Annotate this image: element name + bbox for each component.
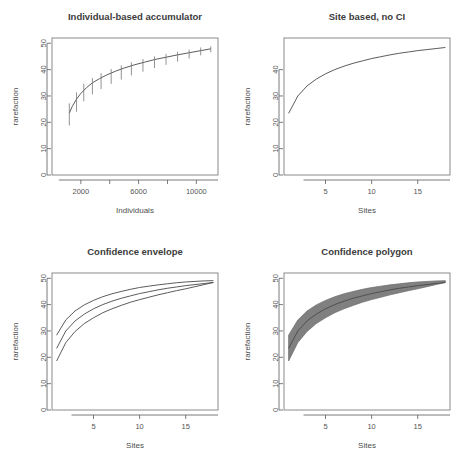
chart-site-based-no-ci: Site based, no CI01020304051015Sitesrare… (232, 0, 464, 235)
panel-site-based-no-ci: Site based, no CI01020304051015Sitesrare… (232, 0, 464, 235)
y-tick-label: 40 (39, 65, 48, 73)
y-tick-label: 30 (271, 92, 280, 100)
y-tick-label: 10 (271, 144, 280, 152)
y-tick-label: 0 (271, 408, 280, 412)
y-tick-label: 30 (39, 92, 48, 100)
panel-confidence-polygon: Confidence polygon0102030405051015Sitesr… (232, 235, 464, 470)
y-tick-label: 10 (271, 379, 280, 387)
x-tick-label: 10 (367, 422, 375, 431)
x-tick-label: 10 (367, 187, 375, 196)
mean-curve (69, 49, 210, 113)
y-tick-label: 20 (271, 353, 280, 361)
y-tick-label: 10 (39, 144, 48, 152)
plot-title: Confidence envelope (87, 246, 183, 257)
plot-title: Confidence polygon (321, 246, 413, 257)
x-axis-title: Sites (358, 206, 376, 215)
y-tick-label: 0 (271, 173, 280, 177)
y-axis-title: rarefaction (11, 323, 20, 361)
x-axis-title: Individuals (116, 206, 154, 215)
y-tick-label: 10 (39, 379, 48, 387)
plot-box (284, 38, 450, 175)
y-tick-label: 40 (271, 300, 280, 308)
x-tick-label: 6000 (130, 187, 147, 196)
panel-confidence-envelope: Confidence envelope0102030405051015Sites… (0, 235, 232, 470)
y-tick-label: 20 (39, 118, 48, 126)
x-tick-label: 15 (182, 422, 190, 431)
curve-lower-confidence-limit (57, 282, 214, 361)
y-axis-title: rarefaction (243, 88, 252, 126)
panel-individual-based-accumulator: Individual-based accumulator010203040502… (0, 0, 232, 235)
x-tick-label: 10000 (186, 187, 207, 196)
plot-title: Individual-based accumulator (68, 11, 202, 22)
figure-panel-grid: Individual-based accumulator010203040502… (0, 0, 464, 470)
y-tick-label: 30 (271, 327, 280, 335)
y-tick-label: 0 (39, 408, 48, 412)
x-tick-label: 5 (323, 187, 327, 196)
y-tick-label: 50 (271, 274, 280, 282)
x-tick-label: 2000 (73, 187, 90, 196)
y-axis-title: rarefaction (243, 323, 252, 361)
y-tick-label: 20 (39, 353, 48, 361)
x-axis-title: Sites (126, 441, 144, 450)
x-tick-label: 15 (414, 187, 422, 196)
y-tick-label: 50 (39, 274, 48, 282)
confidence-polygon-fill (289, 281, 446, 361)
chart-confidence-envelope: Confidence envelope0102030405051015Sites… (0, 235, 232, 470)
x-tick-label: 5 (91, 422, 95, 431)
y-tick-label: 20 (271, 118, 280, 126)
x-tick-label: 15 (414, 422, 422, 431)
chart-individual-based-accumulator: Individual-based accumulator010203040502… (0, 0, 232, 235)
x-axis-title: Sites (358, 441, 376, 450)
y-tick-label: 50 (39, 39, 48, 47)
plot-box (52, 273, 218, 410)
y-tick-label: 0 (39, 173, 48, 177)
y-tick-label: 40 (39, 300, 48, 308)
chart-confidence-polygon: Confidence polygon0102030405051015Sitesr… (232, 235, 464, 470)
plot-title: Site based, no CI (329, 11, 406, 22)
y-tick-label: 30 (39, 327, 48, 335)
x-tick-label: 10 (135, 422, 143, 431)
y-tick-label: 40 (271, 65, 280, 73)
y-axis-title: rarefaction (11, 88, 20, 126)
curve-mean-rarefaction (57, 282, 214, 348)
mean-curve (289, 47, 446, 113)
x-tick-label: 5 (323, 422, 327, 431)
